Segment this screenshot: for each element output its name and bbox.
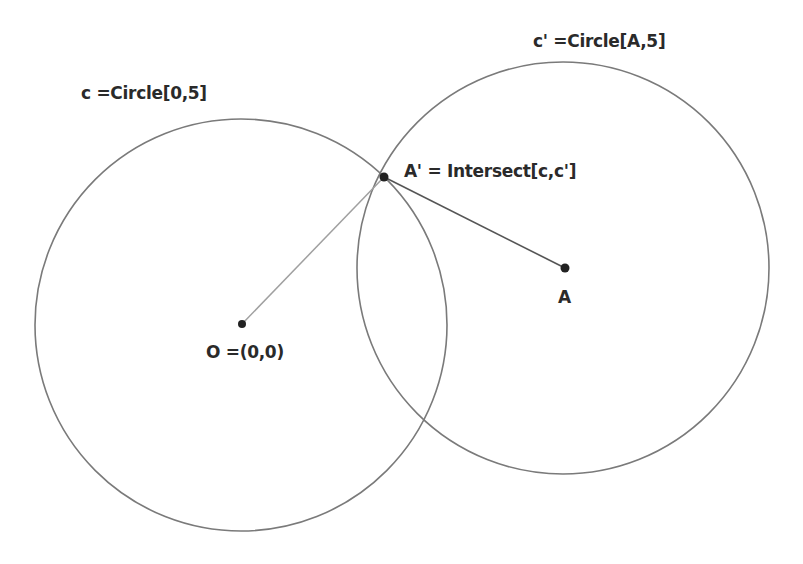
segment-O-to-A-prime: [242, 177, 384, 324]
point-O: [238, 320, 246, 328]
point-A-prime: [380, 173, 389, 182]
point-A: [561, 264, 570, 273]
label-circle-c: c =Circle[0,5]: [81, 85, 207, 102]
label-intersection-A-prime: A' = Intersect[c,c']: [404, 163, 576, 180]
label-point-O: O =(0,0): [206, 344, 284, 361]
label-point-A: A: [558, 289, 571, 306]
label-circle-c-prime: c' =Circle[A,5]: [533, 33, 665, 50]
segment-A-prime-to-A: [384, 177, 565, 268]
